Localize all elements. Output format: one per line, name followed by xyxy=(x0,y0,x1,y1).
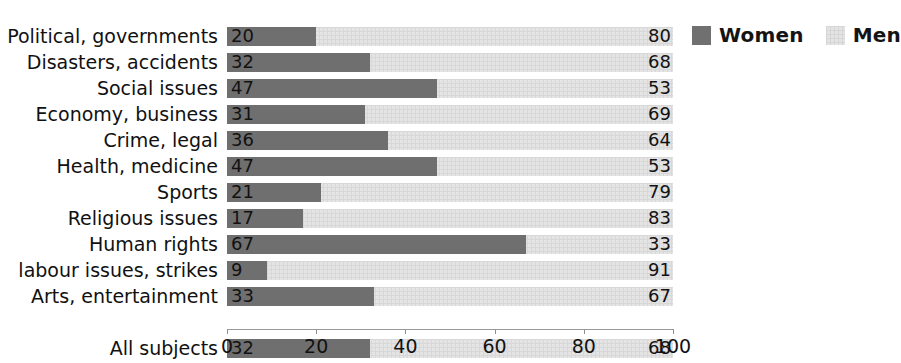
category-label: Sports xyxy=(0,181,218,204)
category-label: labour issues, strikes xyxy=(0,259,218,282)
bar-value-men: 69 xyxy=(640,104,671,124)
bar-value-women: 31 xyxy=(231,104,254,124)
category-label: Social issues xyxy=(0,77,218,100)
bar-value-women: 17 xyxy=(231,208,254,228)
chart-row: Economy, business3169 xyxy=(0,105,884,124)
category-label: Political, governments xyxy=(0,25,218,48)
bar-segment-men xyxy=(227,27,673,46)
x-axis-tick xyxy=(316,329,317,334)
x-axis-tick xyxy=(227,329,228,334)
x-axis: 020406080100 xyxy=(227,329,673,361)
chart-row: Disasters, accidents3268 xyxy=(0,53,884,72)
bar-value-men: 33 xyxy=(640,234,671,254)
x-axis-tick-label: 0 xyxy=(197,335,257,357)
bar-value-women: 32 xyxy=(231,52,254,72)
bar-value-men: 83 xyxy=(640,208,671,228)
bar-value-women: 33 xyxy=(231,286,254,306)
bar-value-men: 67 xyxy=(640,286,671,306)
chart-row: Arts, entertainment3367 xyxy=(0,287,884,306)
chart-row: Human rights6733 xyxy=(0,235,884,254)
bar-segment-men xyxy=(227,287,673,306)
bar-value-women: 47 xyxy=(231,156,254,176)
x-axis-tick xyxy=(584,329,585,334)
x-axis-tick xyxy=(673,329,674,334)
x-axis-tick-label: 80 xyxy=(554,335,614,357)
x-axis-tick-label: 20 xyxy=(286,335,346,357)
category-label: Religious issues xyxy=(0,207,218,230)
category-label: Health, medicine xyxy=(0,155,218,178)
chart-row: Religious issues1783 xyxy=(0,209,884,228)
category-label: Disasters, accidents xyxy=(0,51,218,74)
bar-value-men: 68 xyxy=(640,52,671,72)
category-label: Crime, legal xyxy=(0,129,218,152)
bar-segment-men xyxy=(227,235,673,254)
bar-segment-women xyxy=(227,235,526,254)
bar-value-women: 9 xyxy=(231,260,242,280)
bar-value-men: 53 xyxy=(640,78,671,98)
bar-value-men: 79 xyxy=(640,182,671,202)
bar-value-women: 67 xyxy=(231,234,254,254)
chart-row: Social issues4753 xyxy=(0,79,884,98)
bar-segment-women xyxy=(227,157,437,176)
bar-segment-men xyxy=(227,209,673,228)
x-axis-tick-label: 100 xyxy=(643,335,703,357)
chart-row: Political, governments2080 xyxy=(0,27,884,46)
chart-row: Crime, legal3664 xyxy=(0,131,884,150)
bar-segment-women xyxy=(227,79,437,98)
x-axis-tick-label: 40 xyxy=(375,335,435,357)
bar-segment-men xyxy=(227,157,673,176)
category-label: All subjects xyxy=(0,337,218,360)
category-label: Human rights xyxy=(0,233,218,256)
bar-value-men: 91 xyxy=(640,260,671,280)
x-axis-tick xyxy=(495,329,496,334)
chart-row: labour issues, strikes991 xyxy=(0,261,884,280)
bar-value-men: 64 xyxy=(640,130,671,150)
bar-value-men: 53 xyxy=(640,156,671,176)
bar-segment-men xyxy=(227,261,673,280)
bar-segment-men xyxy=(227,183,673,202)
chart-row: Sports2179 xyxy=(0,183,884,202)
bar-value-men: 80 xyxy=(640,26,671,46)
bar-value-women: 20 xyxy=(231,26,254,46)
bar-value-women: 36 xyxy=(231,130,254,150)
bar-segment-men xyxy=(227,79,673,98)
bar-segment-men xyxy=(227,105,673,124)
bar-segment-men xyxy=(227,53,673,72)
x-axis-tick xyxy=(405,329,406,334)
category-label: Arts, entertainment xyxy=(0,285,218,308)
chart-row: Health, medicine4753 xyxy=(0,157,884,176)
category-label: Economy, business xyxy=(0,103,218,126)
bar-value-women: 21 xyxy=(231,182,254,202)
x-axis-tick-label: 60 xyxy=(465,335,525,357)
x-axis-line xyxy=(227,329,673,330)
bar-segment-men xyxy=(227,131,673,150)
bar-value-women: 47 xyxy=(231,78,254,98)
